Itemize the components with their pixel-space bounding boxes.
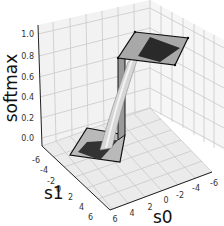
z-axis-label: softmax <box>1 54 21 123</box>
svg-text:-2: -2 <box>176 191 184 200</box>
svg-text:0.8: 0.8 <box>21 52 34 61</box>
svg-text:-4: -4 <box>192 184 200 193</box>
svg-text:0.6: 0.6 <box>21 73 34 82</box>
svg-text:2: 2 <box>147 203 152 212</box>
svg-text:4: 4 <box>79 203 84 212</box>
z-axis-ticks: 1.0 0.8 0.6 0.4 0.2 0.0 <box>21 30 34 143</box>
svg-text:0.4: 0.4 <box>21 93 34 102</box>
axes-panes <box>38 0 224 210</box>
svg-text:2: 2 <box>68 193 73 202</box>
svg-text:6: 6 <box>88 213 93 222</box>
svg-text:6: 6 <box>112 215 117 224</box>
svg-text:0: 0 <box>163 196 168 205</box>
svg-text:-4: -4 <box>40 166 48 175</box>
softmax-3d-surface-plot: 1.0 0.8 0.6 0.4 0.2 0.0 -6 -4 -2 0 2 4 6… <box>0 0 224 226</box>
svg-text:1.0: 1.0 <box>21 30 34 39</box>
s1-axis-label: s1 <box>44 183 64 203</box>
svg-text:0.0: 0.0 <box>21 134 34 143</box>
svg-text:0.2: 0.2 <box>21 114 34 123</box>
svg-text:-6: -6 <box>32 156 40 165</box>
s0-axis-label: s0 <box>153 207 173 226</box>
svg-text:4: 4 <box>129 209 134 218</box>
svg-text:-6: -6 <box>210 179 218 188</box>
